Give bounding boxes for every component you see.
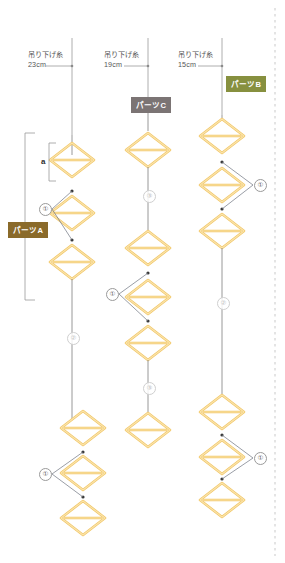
callout-middle-lower-3: ③ [143,382,156,395]
callout-middle-upper-3: ③ [143,190,156,203]
dimension-left: 吊り下げ糸 23cm [28,50,64,70]
left-column [25,133,105,535]
bracket-label-a: a [41,157,45,166]
dimension-right-label: 吊り下げ糸 [178,50,214,59]
badge-parts-b: パーツB [226,76,266,92]
mobile-craft-diagram: 吊り下げ糸 23cm 吊り下げ糸 19cm 吊り下げ糸 15cm パーツC パー… [0,0,285,563]
middle-column [119,110,170,447]
callout-right-lower-1: ① [254,452,267,465]
badge-parts-c: パーツC [131,97,171,113]
dimension-middle-label: 吊り下げ糸 [104,50,140,59]
callout-left-lower-1: ① [39,468,52,481]
callout-middle-mid-1: ① [106,288,119,301]
dimension-right-value: 15cm [178,60,196,69]
dimension-right: 吊り下げ糸 15cm [178,50,214,70]
dimension-middle-value: 19cm [104,60,122,69]
badge-parts-a: パーツA [8,222,48,238]
callout-right-thread-2: ② [217,297,230,310]
callout-right-upper-1: ① [254,179,267,192]
dimension-left-value: 23cm [28,60,46,69]
callout-left-upper-1: ① [39,203,52,216]
callout-left-thread-2: ② [67,332,80,345]
right-column [200,115,253,517]
dimension-left-label: 吊り下げ糸 [28,50,64,59]
dimension-middle: 吊り下げ糸 19cm [104,50,140,70]
